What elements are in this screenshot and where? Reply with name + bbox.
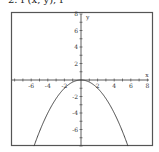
y-tick-label: -6 <box>72 126 78 133</box>
plot-frame <box>12 13 153 146</box>
x-tick-label: 6 <box>129 82 133 89</box>
y-axis-label: y <box>85 13 90 21</box>
x-tick-label: -6 <box>28 82 34 89</box>
y-tick-label: 2 <box>74 60 78 67</box>
x-tick-label: 8 <box>145 82 149 89</box>
y-tick-label: 8 <box>74 10 78 17</box>
parabola-chart: -6-4-224688642-2-4-6xy <box>0 0 159 152</box>
x-tick-label: -4 <box>45 82 51 89</box>
y-tick-label: 6 <box>74 27 78 34</box>
y-tick-label: -2 <box>72 93 78 100</box>
x-axis-label: x <box>145 71 149 78</box>
x-tick-label: 4 <box>112 82 116 89</box>
y-tick-label: -4 <box>72 109 78 116</box>
y-tick-label: 4 <box>74 43 78 50</box>
